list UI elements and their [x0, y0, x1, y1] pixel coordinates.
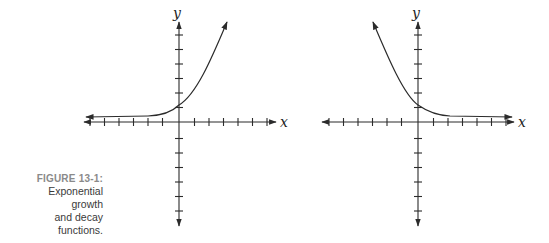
decay-graph: y x: [322, 5, 526, 226]
growth-graph: y x: [84, 5, 288, 226]
x-axis-label: x: [280, 114, 288, 130]
y-axis-label: y: [411, 5, 421, 21]
x-axis-label: x: [518, 114, 526, 130]
y-axis-label: y: [172, 5, 182, 21]
growth-curve: [86, 22, 227, 117]
graphs-canvas: y x y x: [0, 0, 549, 243]
decay-curve: [373, 22, 512, 117]
